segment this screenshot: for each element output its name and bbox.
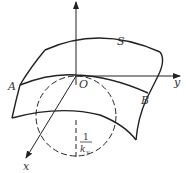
label-b: B [140,94,149,107]
label-s: S [117,35,125,48]
surface-bottom-edge [12,111,136,140]
label-o: O [79,78,88,91]
label-y-axis: y [173,76,181,89]
radius-subscript: y [85,148,90,156]
x-axis [26,76,76,158]
label-x-axis: x [23,160,30,173]
radius-numerator: 1 [83,132,89,142]
surface-diagram: S O A B y x 1 k y [0,0,186,173]
label-a: A [7,80,16,93]
surface-top-edge [45,38,160,52]
radius-denominator: k [80,144,85,154]
surface-left-edge [20,50,45,85]
